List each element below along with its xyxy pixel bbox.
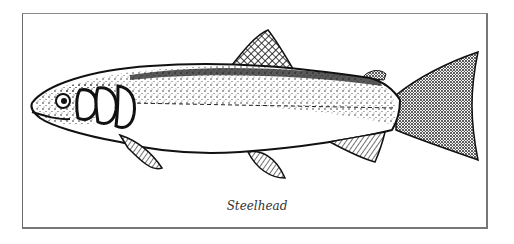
caudal-fin	[396, 52, 478, 160]
pelvic-fin	[248, 152, 285, 178]
illustration-caption: Steelhead	[0, 199, 514, 213]
